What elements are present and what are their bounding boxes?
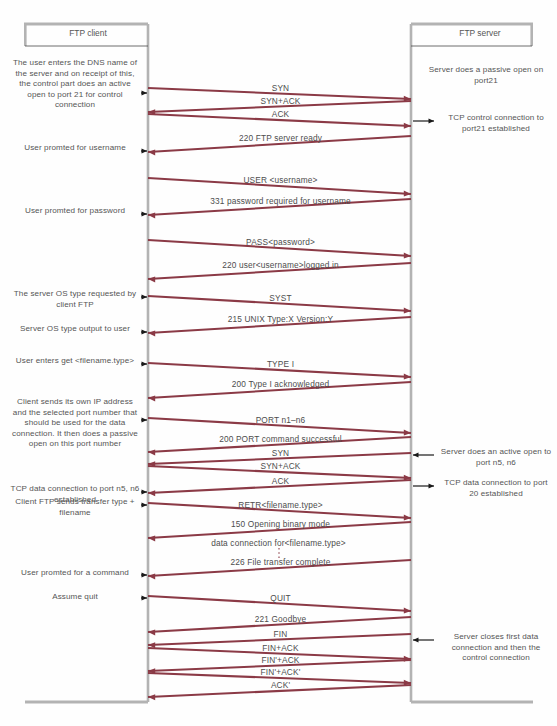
client-note: Client sends its own IP address and the …: [10, 397, 140, 450]
client-note: Server OS type output to user: [10, 324, 140, 335]
client-note: User enters get <filename.type>: [10, 356, 140, 367]
message-label: ACK': [0, 680, 557, 690]
message-label: 226 File transfer complete: [0, 557, 557, 567]
message-label: 221 Goodbye: [0, 614, 557, 624]
note-pointer-arrow: [141, 489, 147, 494]
message-label: FIN'+ACK': [0, 667, 557, 677]
server-note: TCP control connection to port21 establi…: [440, 113, 552, 134]
message-label: USER <username>: [0, 175, 557, 185]
message-label: 215 UNIX Type:X Version:Y: [0, 314, 557, 324]
message-continuation-label: data connection for<filename.type>: [0, 538, 557, 548]
server-note: Server does a passive open on port21: [425, 65, 547, 86]
ftp-sequence-diagram: FTP client FTP server SYNSYN+ACKACK220 F…: [0, 0, 557, 726]
message-label: 220 user<username>logged in: [0, 260, 557, 270]
note-pointer-arrow: [413, 118, 434, 123]
client-note: User promted for password: [10, 206, 140, 217]
note-pointer-head: [142, 329, 148, 334]
note-pointer-head: [429, 118, 435, 123]
client-note: User promted for username: [10, 143, 140, 154]
note-pointer-arrow: [141, 329, 147, 334]
message-label: PASS<password>: [0, 237, 557, 247]
note-pointer-head: [142, 211, 148, 216]
note-pointer-arrow: [141, 211, 147, 216]
note-pointer-head: [142, 489, 148, 494]
message-label: 150 Opening binary mode: [0, 519, 557, 529]
message-label: 200 Type I acknowledged: [0, 379, 557, 389]
note-pointer-arrow: [141, 572, 147, 577]
client-note: Assume quit: [10, 592, 140, 603]
server-note: TCP data connection to port 20 establish…: [440, 478, 552, 499]
server-header-label: FTP server: [420, 28, 540, 38]
client-note: The user enters the DNS name of the serv…: [10, 58, 140, 111]
note-pointer-arrow: [141, 148, 147, 153]
message-label: 331 password required for username: [0, 196, 557, 206]
server-note: Server closes first data connection and …: [440, 632, 552, 664]
note-pointer-head: [142, 572, 148, 577]
note-pointer-head: [142, 148, 148, 153]
server-note: Server does an active open to port n5, n…: [440, 447, 552, 468]
message-label: 220 FTP server ready: [0, 133, 557, 143]
client-note: The server OS type requested by client F…: [10, 289, 140, 310]
client-note: Client FTP sends transfer type + filenam…: [10, 497, 140, 518]
client-note: User promted for a command: [10, 568, 140, 579]
client-header-label: FTP client: [28, 28, 148, 38]
